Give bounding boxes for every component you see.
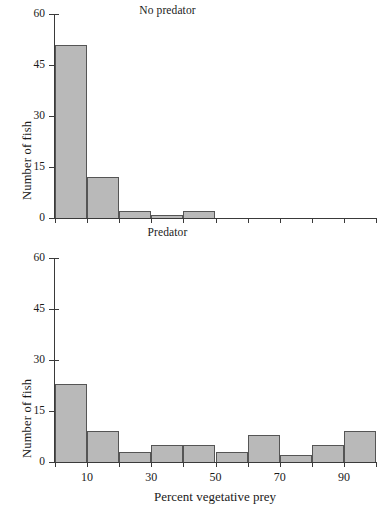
y-axis-tick-label: 15	[34, 161, 46, 173]
y-axis-tick	[49, 258, 59, 259]
y-axis-tick	[49, 309, 59, 310]
y-axis-tick-label: 45	[34, 303, 46, 315]
panel-no-predator: No predator Number of fish 015304560	[0, 0, 383, 228]
x-axis-tick-label: 10	[81, 471, 93, 483]
x-axis-tick	[280, 218, 281, 223]
x-axis-tick	[344, 462, 345, 467]
x-axis-tick	[55, 218, 56, 223]
histogram-bar	[119, 211, 151, 218]
x-axis-tick	[312, 218, 313, 223]
x-axis-tick	[248, 462, 249, 467]
y-axis-tick	[49, 218, 59, 219]
histogram-bar	[248, 435, 280, 462]
histogram-bar	[87, 177, 119, 218]
y-axis-tick	[49, 14, 59, 15]
y-axis-tick-label: 30	[34, 354, 46, 366]
x-axis-tick	[376, 462, 377, 467]
x-axis-tick	[119, 462, 120, 467]
y-axis-tick-label: 60	[34, 8, 46, 20]
histogram-bar	[151, 445, 183, 462]
plot-area-predator: 0153045601030507090	[54, 258, 376, 463]
histogram-bar	[312, 445, 344, 462]
y-axis-title-bottom: Number of fish	[20, 379, 35, 458]
x-axis-tick	[216, 462, 217, 467]
x-axis-tick	[55, 462, 56, 467]
x-axis-tick	[119, 218, 120, 223]
y-axis-tick-label: 60	[34, 252, 46, 264]
histogram-bar	[183, 445, 215, 462]
x-axis-tick-label: 50	[210, 471, 222, 483]
y-axis-tick-label: 30	[34, 110, 46, 122]
histogram-bar	[119, 452, 151, 462]
x-axis-tick-label: 70	[274, 471, 286, 483]
x-axis-tick	[344, 218, 345, 223]
y-axis-tick	[49, 360, 59, 361]
x-axis-tick	[183, 218, 184, 223]
x-axis-title: Percent vegetative prey	[54, 489, 376, 505]
x-axis-tick	[151, 462, 152, 467]
histogram-bar	[183, 211, 215, 218]
x-axis-tick	[87, 462, 88, 467]
y-axis-tick-label: 0	[39, 456, 45, 468]
histogram-bar	[216, 452, 248, 462]
histogram-bar	[344, 431, 376, 462]
y-axis-tick-label: 45	[34, 59, 46, 71]
x-axis-tick	[376, 218, 377, 223]
x-axis-tick	[280, 462, 281, 467]
x-axis-tick	[183, 462, 184, 467]
y-axis-tick-label: 0	[39, 212, 45, 224]
y-axis-tick	[49, 462, 59, 463]
x-axis-tick	[312, 462, 313, 467]
histogram-bar	[280, 455, 312, 462]
histogram-bar	[87, 431, 119, 462]
x-axis-tick-label: 30	[145, 471, 157, 483]
x-axis-tick-label: 90	[338, 471, 350, 483]
figure-histogram-pair: No predator Number of fish 015304560 Pre…	[0, 0, 383, 511]
plot-area-no-predator: 015304560	[54, 14, 376, 219]
x-axis-tick	[87, 218, 88, 223]
histogram-bar	[55, 45, 87, 218]
y-axis-tick-label: 15	[34, 405, 46, 417]
panel-title-predator: Predator	[0, 226, 383, 238]
x-axis-tick	[248, 218, 249, 223]
histogram-bar	[151, 215, 183, 218]
x-axis-tick	[216, 218, 217, 223]
histogram-bar	[55, 384, 87, 462]
x-axis-tick	[151, 218, 152, 223]
